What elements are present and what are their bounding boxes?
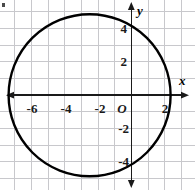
y-tick-label-neg4: -4: [118, 154, 129, 169]
graph-canvas: y x -6 -4 -2 O 2 4 2 -2 -4: [0, 0, 195, 190]
origin-label: O: [117, 101, 127, 116]
y-tick-label-neg2: -2: [118, 121, 129, 136]
x-axis-left-arrowhead: [6, 92, 14, 99]
x-tick-label-neg2: -2: [95, 101, 106, 116]
x-tick-label-neg4: -4: [61, 101, 72, 116]
coordinate-plane-figure: y x -6 -4 -2 O 2 4 2 -2 -4: [0, 0, 195, 190]
y-axis-bottom-arrowhead: [128, 180, 135, 188]
y-axis-name-label: y: [135, 3, 143, 18]
y-axis-top-arrowhead: [128, 2, 135, 10]
x-axis-right-arrowhead: [181, 92, 189, 99]
x-axis-name-label: x: [178, 73, 186, 88]
y-tick-label-2: 2: [121, 54, 128, 69]
y-tick-label-4: 4: [121, 21, 128, 36]
x-tick-label-neg6: -6: [27, 101, 38, 116]
x-tick-label-pos2: 2: [162, 101, 169, 116]
